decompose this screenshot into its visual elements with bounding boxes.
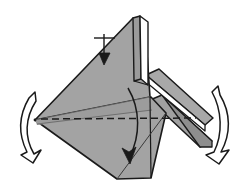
vertical-standing-flap-back [140, 16, 148, 85]
right-open-close-arrow [206, 86, 229, 164]
right-open-close-arrow-body [206, 86, 229, 164]
left-apex-point [34, 119, 37, 122]
left-open-close-arrow-body [21, 92, 41, 163]
left-open-close-arrow [21, 92, 41, 163]
folded-paper-body [34, 16, 213, 179]
origami-diagram-canvas [0, 0, 239, 193]
origami-diagram-figure: Origami fold step diagram push in here f… [0, 0, 239, 193]
